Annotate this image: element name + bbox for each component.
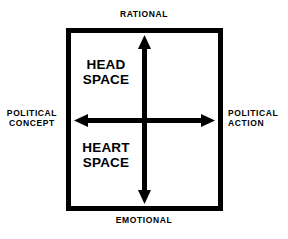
quadrant-label-head-space: HEAD SPACE xyxy=(70,58,142,87)
quadrant-diagram: RATIONAL EMOTIONAL POLITICAL CONCEPT POL… xyxy=(0,0,288,239)
diagram-frame xyxy=(66,28,223,211)
quadrant-label-heart-space: HEART SPACE xyxy=(70,141,142,170)
axis-label-emotional: EMOTIONAL xyxy=(0,216,288,226)
axis-label-political-action: POLITICAL ACTION xyxy=(228,109,288,128)
axis-label-rational: RATIONAL xyxy=(0,10,288,20)
axis-label-political-concept: POLITICAL CONCEPT xyxy=(2,109,62,128)
